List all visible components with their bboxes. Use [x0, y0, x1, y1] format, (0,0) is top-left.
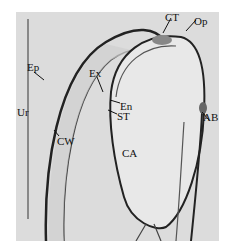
label-ex: Ex — [89, 68, 101, 79]
label-st: ST — [117, 111, 130, 122]
micrograph — [16, 12, 219, 241]
label-ab: AB — [203, 112, 218, 123]
label-ur: Ur — [17, 107, 29, 118]
tissue-drawing — [16, 12, 219, 241]
label-ca: CA — [122, 148, 137, 159]
label-ct: CT — [165, 12, 179, 23]
label-cw: CW — [57, 136, 75, 147]
label-ep: Ep — [27, 62, 39, 73]
label-op: Op — [194, 16, 207, 27]
